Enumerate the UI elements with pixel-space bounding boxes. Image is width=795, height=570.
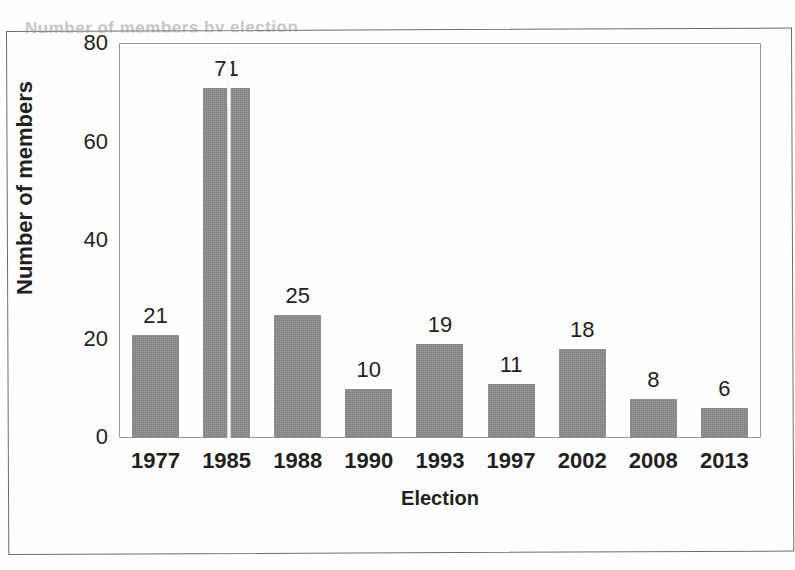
x-tick-label: 2002 [547, 448, 618, 474]
x-tick-label: 1977 [120, 448, 191, 474]
bar-slot: 19 [404, 44, 475, 438]
x-axis-tick-labels: 197719851988199019931997200220082013 [120, 448, 760, 482]
bar[interactable] [630, 399, 677, 438]
y-tick-label: 0 [50, 424, 108, 450]
bar-value-label: 8 [618, 367, 689, 393]
bar[interactable] [488, 384, 535, 438]
x-tick-label: 1990 [333, 448, 404, 474]
bar-slot: 11 [476, 44, 547, 438]
bar-slot: 18 [547, 44, 618, 438]
x-tick-label: 2008 [618, 448, 689, 474]
bar-value-label: 6 [689, 376, 760, 402]
y-tick-label: 40 [50, 227, 108, 253]
bar-value-label: 19 [404, 312, 475, 338]
bar-value-label: 21 [120, 303, 191, 329]
bar[interactable] [701, 408, 748, 438]
x-tick-label: 1993 [404, 448, 475, 474]
bar-slot: 25 [262, 44, 333, 438]
bar-value-label: 11 [476, 352, 547, 378]
bar-slot: 71 [191, 44, 262, 438]
bars-layer: 2171251019111886 [120, 44, 760, 438]
bar[interactable] [559, 349, 606, 438]
y-tick-label: 80 [50, 30, 108, 56]
bar-value-label: 18 [547, 317, 618, 343]
bar-slot: 10 [333, 44, 404, 438]
y-tick-label: 20 [50, 326, 108, 352]
bar-slot: 6 [689, 44, 760, 438]
bar-slot: 8 [618, 44, 689, 438]
y-axis-tick-labels: 806040200 [46, 43, 108, 438]
bar[interactable] [274, 315, 321, 438]
y-axis-title: Number of members [12, 58, 38, 318]
x-tick-label: 2013 [689, 448, 760, 474]
x-tick-label: 1985 [191, 448, 262, 474]
bar-slot: 21 [120, 44, 191, 438]
bar-value-label: 25 [262, 283, 333, 309]
y-tick-label: 60 [50, 129, 108, 155]
bar-chart: Number of members 806040200 217125101911… [0, 0, 795, 570]
x-axis-title: Election [120, 487, 760, 510]
bar[interactable] [203, 88, 250, 438]
bar-value-label: 10 [333, 357, 404, 383]
bar[interactable] [416, 344, 463, 438]
bar[interactable] [345, 389, 392, 438]
x-tick-label: 1997 [476, 448, 547, 474]
bar[interactable] [132, 335, 179, 438]
bar-value-label: 71 [191, 56, 262, 82]
x-tick-label: 1988 [262, 448, 333, 474]
